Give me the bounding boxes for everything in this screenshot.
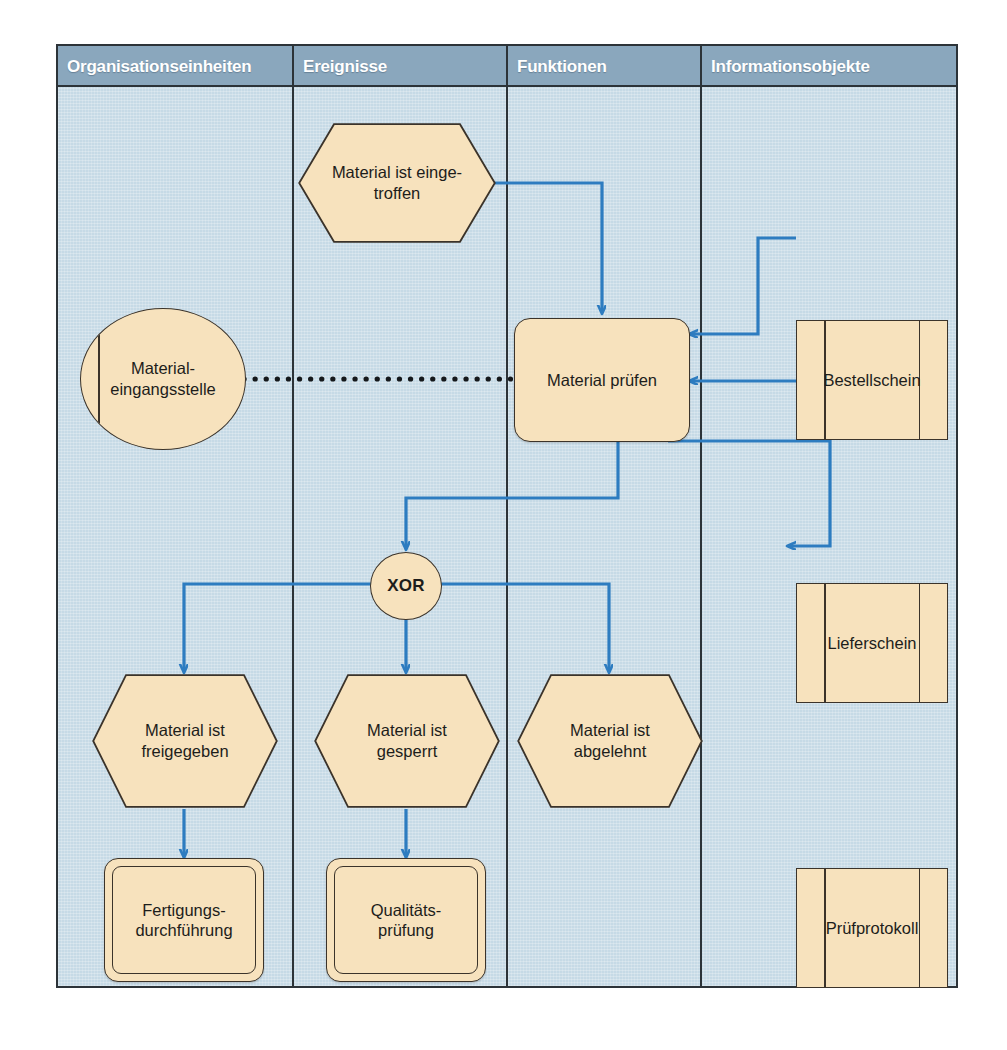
function-material-pruefen-label: Material prüfen [547, 370, 657, 390]
node-event-material-eingetroffen[interactable]: Material ist einge- troffen [298, 123, 496, 243]
procif-qualitaetspruefung-label: Qualitäts- prüfung [334, 866, 478, 974]
header-separator-1 [292, 46, 294, 87]
procif-fertigungsdurchfuehrung-label: Fertigungs- durchführung [112, 866, 256, 974]
header-separator-3 [700, 46, 702, 87]
node-event-material-freigegeben[interactable]: Material ist freigegeben [92, 674, 278, 808]
column-header-informationsobjekte: Informationsobjekte [702, 46, 958, 87]
lane-divider-3 [700, 87, 702, 986]
node-info-pruefprotokoll[interactable]: Prüfprotokoll [796, 868, 948, 988]
edge-pruefen-to-xor [406, 441, 618, 549]
edge-layer [58, 46, 960, 990]
info-bestellschein-label: Bestellschein [797, 370, 947, 390]
edge-bestellschein-to-pruefen [690, 238, 796, 334]
edge-eingetroffen-to-pruefen [495, 183, 602, 313]
connector-xor-label: XOR [387, 576, 425, 597]
event-material-abgelehnt-label: Material ist abgelehnt [517, 674, 703, 808]
org-materialeingangsstelle-label: Material- eingangsstelle [81, 358, 245, 399]
epc-diagram-panel: Organisationseinheiten Ereignisse Funkti… [56, 44, 958, 988]
info-pruefprotokoll-label: Prüfprotokoll [797, 918, 947, 938]
info-lieferschein-label: Lieferschein [797, 633, 947, 653]
node-event-material-abgelehnt[interactable]: Material ist abgelehnt [517, 674, 703, 808]
lane-divider-2 [506, 87, 508, 986]
lane-divider-1 [292, 87, 294, 986]
node-process-interface-fertigungsdurchfuehrung[interactable]: Fertigungs- durchführung [104, 858, 264, 982]
node-event-material-gesperrt[interactable]: Material ist gesperrt [314, 674, 500, 808]
node-function-material-pruefen[interactable]: Material prüfen [514, 318, 690, 442]
column-header-ereignisse: Ereignisse [294, 46, 506, 87]
diagram-canvas: Organisationseinheiten Ereignisse Funkti… [0, 0, 1007, 1050]
column-header-organisationseinheiten: Organisationseinheiten [58, 46, 292, 87]
node-info-bestellschein[interactable]: Bestellschein [796, 320, 948, 440]
edge-pruefen-to-pruefprotokoll [668, 441, 830, 546]
node-connector-xor[interactable]: XOR [370, 552, 442, 620]
column-header-funktionen: Funktionen [508, 46, 700, 87]
column-header-band: Organisationseinheiten Ereignisse Funkti… [58, 46, 956, 87]
event-material-gesperrt-label: Material ist gesperrt [314, 674, 500, 808]
header-separator-2 [506, 46, 508, 87]
node-org-materialeingangsstelle[interactable]: Material- eingangsstelle [80, 308, 246, 450]
node-process-interface-qualitaetspruefung[interactable]: Qualitäts- prüfung [326, 858, 486, 982]
event-material-eingetroffen-label: Material ist einge- troffen [298, 123, 496, 243]
event-material-freigegeben-label: Material ist freigegeben [92, 674, 278, 808]
node-info-lieferschein[interactable]: Lieferschein [796, 583, 948, 703]
edge-xor-to-abgelehnt [434, 584, 609, 672]
edge-xor-to-freigegeben [184, 584, 378, 672]
